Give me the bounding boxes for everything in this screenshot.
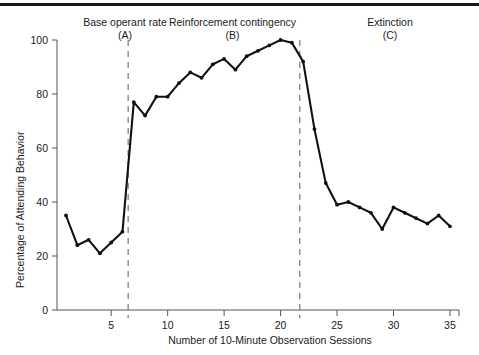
svg-text:30: 30 xyxy=(388,319,400,331)
data-series-line xyxy=(66,40,450,253)
svg-text:20: 20 xyxy=(36,250,48,262)
svg-text:5: 5 xyxy=(108,319,114,331)
x-axis-label: Number of 10-Minute Observation Sessions xyxy=(120,334,420,346)
page-bottom-text-sliver xyxy=(6,346,186,354)
svg-text:35: 35 xyxy=(444,319,456,331)
svg-text:80: 80 xyxy=(36,88,48,100)
svg-text:100: 100 xyxy=(30,34,48,46)
x-axis: 5101520253035 xyxy=(57,310,459,331)
svg-text:15: 15 xyxy=(218,319,230,331)
y-axis-label: Percentage of Attending Behavior xyxy=(14,132,26,288)
y-axis: 020406080100 xyxy=(30,34,57,316)
svg-text:40: 40 xyxy=(36,196,48,208)
svg-text:60: 60 xyxy=(36,142,48,154)
svg-text:25: 25 xyxy=(331,319,343,331)
svg-text:0: 0 xyxy=(42,304,48,316)
svg-text:10: 10 xyxy=(162,319,174,331)
svg-text:20: 20 xyxy=(275,319,287,331)
chart-plot: 020406080100 5101520253035 xyxy=(0,0,479,355)
phase-dividers xyxy=(128,40,300,318)
figure-container: Base operant rate (A) Reinforcement cont… xyxy=(0,0,479,355)
